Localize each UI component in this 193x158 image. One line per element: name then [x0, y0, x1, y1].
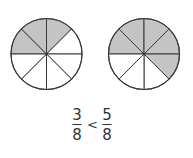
center-point: [143, 53, 146, 56]
fraction-circles: [11, 19, 180, 90]
left-numerator: 3: [72, 106, 82, 124]
fraction-expression: 3 8 < 5 8: [72, 106, 112, 144]
right-numerator: 5: [102, 106, 112, 124]
fraction-comparison-diagram: 3 8 < 5 8: [0, 0, 193, 158]
center-point: [45, 53, 48, 56]
left-denominator: 8: [72, 126, 82, 144]
comparison-operator: <: [87, 117, 98, 132]
left-circle: [11, 19, 82, 90]
right-denominator: 8: [102, 126, 112, 144]
right-circle: [109, 19, 180, 90]
